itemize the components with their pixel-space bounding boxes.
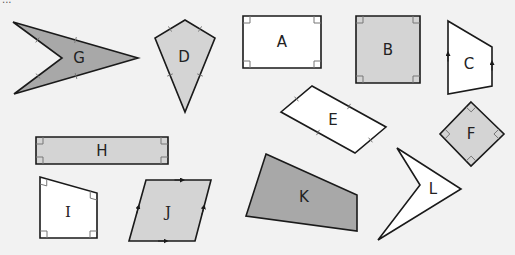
shape-a: A <box>243 16 321 68</box>
shape-label: L <box>429 180 438 198</box>
shape-e: E <box>281 86 386 153</box>
shape-label: C <box>464 55 474 73</box>
shape-label: E <box>328 111 337 129</box>
shape-h: H <box>36 137 168 164</box>
shape-l: L <box>378 148 461 240</box>
shape-j: J <box>129 180 211 241</box>
shape-label: B <box>383 41 393 59</box>
shape-outline <box>378 148 461 240</box>
diagram-canvas: ... GDABCEFHIJKL <box>0 0 515 255</box>
shape-g: G <box>13 22 138 94</box>
shape-f: F <box>440 102 504 166</box>
shape-label: J <box>163 203 171 221</box>
shape-label: I <box>65 203 71 221</box>
shape-label: D <box>178 48 190 66</box>
shape-label: F <box>467 125 476 143</box>
shape-b: B <box>356 16 420 83</box>
shape-k: K <box>246 154 357 231</box>
shape-label: G <box>73 49 85 67</box>
shape-outline <box>155 20 215 112</box>
shapes-svg: GDABCEFHIJKL <box>0 0 515 255</box>
shape-c: C <box>448 21 492 94</box>
partial-header-text: ... <box>2 0 12 5</box>
shape-label: H <box>96 142 107 160</box>
shape-label: K <box>299 188 310 206</box>
shape-label: A <box>277 33 288 51</box>
shape-i: I <box>40 177 97 238</box>
shape-d: D <box>155 20 215 112</box>
